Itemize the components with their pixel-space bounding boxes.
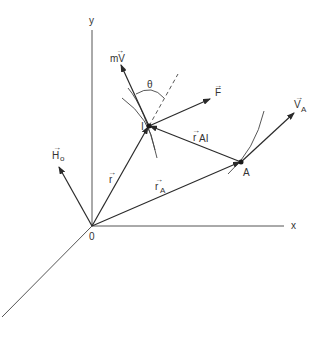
svg-text:A: A [160, 186, 166, 195]
x-axis-label: x [291, 220, 296, 231]
label-r: r → [108, 168, 116, 185]
reference-dashed-line [149, 74, 178, 126]
vector-VA [241, 113, 294, 162]
label-VA: V A → [294, 93, 307, 114]
vector-diagram: y x 0 θ I A mV → F → V A → r AI → r → r [0, 0, 321, 341]
point-I-label: I [141, 121, 144, 132]
point-A [239, 160, 244, 165]
label-mV: mV → [110, 46, 125, 64]
svg-text:→: → [108, 168, 116, 177]
vector-Ho [59, 167, 92, 226]
z-axis [2, 226, 92, 317]
vector-r [92, 127, 148, 226]
svg-text:→: → [116, 46, 124, 55]
svg-text:A: A [301, 105, 307, 114]
svg-text:AI: AI [199, 133, 208, 144]
point-A-label: A [243, 167, 250, 178]
y-axis-label: y [89, 15, 94, 26]
svg-text:o: o [60, 154, 65, 163]
svg-text:→: → [214, 81, 222, 90]
label-rAI: r AI → [192, 126, 208, 144]
theta-label: θ [147, 79, 153, 90]
origin-label: 0 [89, 231, 95, 242]
svg-text:→: → [192, 126, 200, 135]
vector-mV [121, 65, 149, 126]
svg-text:→: → [295, 93, 303, 102]
theta-arc [136, 90, 164, 98]
vector-F [149, 99, 210, 126]
label-rA: r A → [155, 175, 166, 195]
label-Ho: H o → [52, 143, 65, 163]
svg-text:→: → [53, 143, 61, 152]
label-F: F → [214, 81, 222, 98]
svg-text:→: → [155, 175, 163, 184]
point-I [147, 124, 152, 129]
